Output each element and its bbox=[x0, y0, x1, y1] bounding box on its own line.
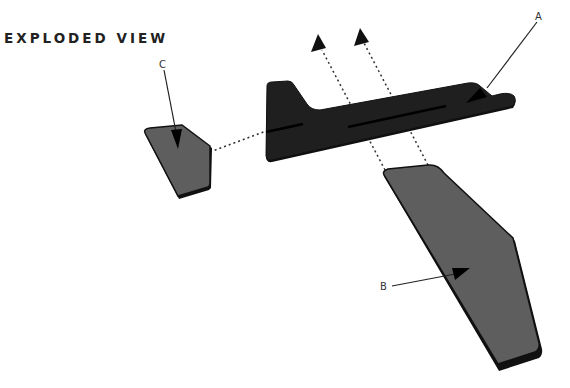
label-b: B bbox=[380, 281, 387, 292]
guide-arrow-icon bbox=[354, 28, 369, 46]
guide-arrow-icon bbox=[311, 34, 326, 52]
label-c: C bbox=[159, 59, 166, 70]
part-b-wing bbox=[384, 165, 543, 371]
label-a: A bbox=[535, 11, 542, 22]
guide-line-tail bbox=[210, 131, 266, 152]
exploded-view-diagram: A B C bbox=[0, 0, 570, 388]
